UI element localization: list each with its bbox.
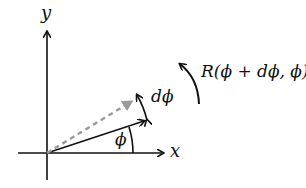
- y-axis-label: y: [41, 2, 51, 23]
- x-axis-label: x: [170, 140, 180, 161]
- rotation-label: R(ϕ + dϕ, ϕ): [201, 61, 306, 81]
- vector-solid: [47, 121, 144, 153]
- angle-label-dphi: dϕ: [151, 86, 173, 106]
- angle-arc-dphi: [137, 95, 147, 120]
- angle-label-phi: ϕ: [115, 129, 127, 149]
- rotation-diagram: y x ϕ dϕ R(ϕ + dϕ, ϕ): [0, 0, 306, 188]
- angle-arc-phi: [129, 127, 133, 153]
- rotation-arrow: [180, 64, 199, 104]
